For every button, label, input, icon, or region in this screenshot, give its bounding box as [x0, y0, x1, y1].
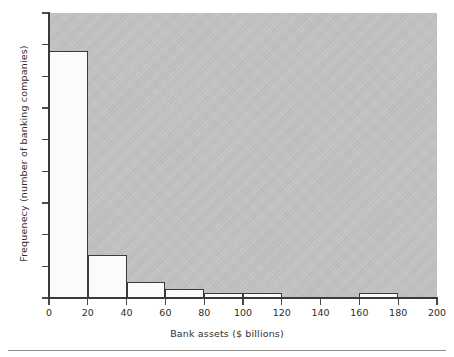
histogram-bar [359, 293, 398, 298]
y-axis-tick [42, 44, 48, 45]
x-axis-tick [320, 299, 321, 305]
y-axis-tick [42, 234, 48, 235]
x-axis-tick-label: 0 [29, 308, 69, 318]
x-axis-tick-label: 160 [339, 308, 379, 318]
y-axis-tick [42, 297, 48, 298]
x-axis-tick-label: 140 [301, 308, 341, 318]
x-axis-tick-label: 80 [184, 308, 224, 318]
x-axis-tick [359, 299, 360, 305]
x-axis-tick [436, 299, 437, 305]
x-axis-tick [165, 299, 166, 305]
y-axis-tick [42, 12, 48, 13]
x-axis-tick [87, 299, 88, 305]
x-axis-title: Bank assets ($ billions) [0, 328, 454, 339]
x-axis-tick-label: 40 [107, 308, 147, 318]
x-axis-tick-label: 100 [223, 308, 263, 318]
y-axis-tick [42, 171, 48, 172]
histogram-bar [165, 289, 204, 299]
x-axis-tick-label: 20 [68, 308, 108, 318]
x-axis-tick-label: 200 [417, 308, 454, 318]
x-axis-tick [126, 299, 127, 305]
x-axis-tick-label: 120 [262, 308, 302, 318]
x-axis-tick [48, 299, 49, 305]
histogram-bar [204, 293, 243, 298]
x-axis-tick [204, 299, 205, 305]
y-axis-title: Frequenecy (number of banking companies) [18, 24, 29, 284]
x-axis-tick [398, 299, 399, 305]
y-axis-tick [42, 139, 48, 140]
y-axis-tick [42, 266, 48, 267]
x-axis-tick-label: 60 [145, 308, 185, 318]
bottom-divider [8, 350, 446, 351]
histogram-bar [88, 255, 127, 298]
histogram-bar [127, 282, 166, 298]
histogram-figure: 0102030405060708090 02040608010012014016… [0, 0, 454, 357]
histogram-bar [49, 51, 88, 298]
y-axis-tick [42, 202, 48, 203]
y-axis-tick [42, 107, 48, 108]
x-axis-tick-label: 180 [378, 308, 418, 318]
x-axis-tick [242, 299, 243, 305]
y-axis-tick [42, 76, 48, 77]
histogram-bar [243, 293, 282, 298]
x-axis-tick [281, 299, 282, 305]
